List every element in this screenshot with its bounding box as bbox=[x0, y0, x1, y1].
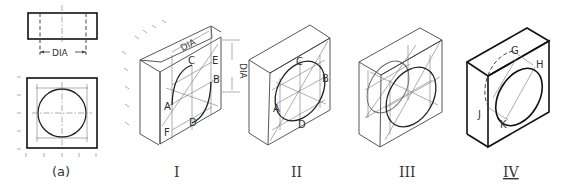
point-A: A bbox=[273, 103, 280, 114]
caption-III: III bbox=[399, 164, 416, 180]
point-G: G bbox=[511, 45, 519, 56]
point-B: B bbox=[322, 73, 329, 84]
point-E: E bbox=[212, 55, 218, 66]
caption-I: I bbox=[174, 164, 180, 180]
point-A: A bbox=[164, 101, 171, 112]
point-H: H bbox=[536, 59, 544, 70]
caption-IV: IV bbox=[503, 164, 520, 180]
point-D: D bbox=[298, 119, 306, 130]
isometric-ellipse bbox=[376, 58, 446, 135]
point-F: F bbox=[164, 127, 170, 138]
panel-III: III bbox=[358, 28, 446, 180]
hidden-back-ellipse bbox=[485, 51, 513, 108]
panel-I: DIA DIA C E B A D F I bbox=[122, 20, 248, 180]
panel-II: C B A D II bbox=[249, 25, 335, 180]
panel-IV: G H J K IV bbox=[467, 28, 552, 180]
isometric-circle-construction-figure: DIA (a) bbox=[0, 0, 562, 195]
top-view-rect bbox=[28, 13, 97, 39]
point-B: B bbox=[213, 74, 220, 85]
panel-a: DIA (a) bbox=[17, 5, 97, 179]
point-J: J bbox=[477, 109, 481, 120]
front-face bbox=[488, 41, 549, 147]
point-D: D bbox=[189, 117, 197, 128]
point-K: K bbox=[500, 119, 507, 130]
dim-label-side: DIA bbox=[238, 63, 248, 80]
caption-a: (a) bbox=[52, 164, 70, 179]
point-C: C bbox=[188, 55, 195, 66]
caption-II: II bbox=[291, 164, 302, 180]
point-C: C bbox=[296, 56, 303, 67]
dim-label-dia: DIA bbox=[52, 48, 69, 58]
